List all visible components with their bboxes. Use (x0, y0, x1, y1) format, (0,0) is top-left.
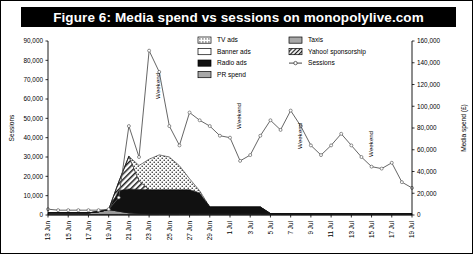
sessions-data-point (117, 196, 120, 199)
svg-text:80,000: 80,000 (23, 57, 43, 64)
svg-text:17 Jul: 17 Jul (388, 221, 395, 238)
sessions-data-point (249, 154, 252, 157)
legend-item-label: Banner ads (217, 48, 251, 55)
svg-text:60,000: 60,000 (417, 146, 437, 153)
svg-text:27 Jun: 27 Jun (186, 221, 193, 241)
svg-text:13 Jul: 13 Jul (348, 221, 355, 238)
svg-text:0: 0 (39, 211, 43, 218)
sessions-data-point (178, 144, 181, 147)
svg-text:30,000: 30,000 (23, 153, 43, 160)
figure-title-bar: Figure 6: Media spend vs sessions on mon… (21, 7, 456, 27)
area-tv-ads (48, 155, 412, 214)
sessions-data-point (259, 134, 262, 137)
legend-swatch (198, 72, 211, 78)
sessions-data-point (239, 159, 242, 162)
svg-text:140,000: 140,000 (417, 59, 441, 66)
weekend-annotation: Weekend (154, 72, 161, 99)
sessions-data-point (350, 144, 353, 147)
svg-text:5 Jul: 5 Jul (267, 221, 274, 235)
chart-legend: TV adsBanner adsRadio adsPR spendTaxisYa… (198, 36, 366, 79)
sessions-data-point (188, 111, 191, 114)
svg-text:13 Jun: 13 Jun (44, 221, 51, 241)
sessions-data-point (340, 132, 343, 135)
legend-item-label: Taxis (308, 36, 324, 43)
svg-text:17 Jun: 17 Jun (85, 221, 92, 241)
svg-text:25 Jun: 25 Jun (166, 221, 173, 241)
sessions-data-point (279, 128, 282, 131)
page-title: Figure 6: Media spend vs sessions on mon… (53, 10, 424, 25)
sessions-data-point (269, 119, 272, 122)
sessions-data-point (208, 125, 211, 128)
sessions-data-point (370, 165, 373, 168)
svg-text:Media spend (£): Media spend (£) (460, 104, 468, 152)
sessions-data-point (107, 208, 110, 211)
legend-item: Banner ads (198, 48, 251, 55)
svg-text:11 Jul: 11 Jul (327, 221, 334, 238)
sessions-data-point (138, 156, 141, 159)
svg-text:0: 0 (417, 211, 421, 218)
sessions-data-point (218, 134, 221, 137)
sessions-data-point (87, 209, 90, 212)
svg-text:19 Jul: 19 Jul (408, 221, 415, 238)
chart-plot-area: 010,00020,00030,00040,00050,00060,00070,… (1, 29, 473, 254)
stacked-spend-areas (48, 155, 412, 215)
svg-text:50,000: 50,000 (23, 115, 43, 122)
svg-text:10,000: 10,000 (23, 192, 43, 199)
weekend-annotation: Weekend (296, 122, 303, 149)
svg-text:40,000: 40,000 (23, 134, 43, 141)
svg-text:80,000: 80,000 (417, 124, 437, 131)
sessions-data-point (400, 181, 403, 184)
legend-item: Radio ads (198, 59, 247, 66)
sessions-data-point (289, 109, 292, 112)
legend-swatch (198, 60, 211, 66)
svg-text:20,000: 20,000 (417, 190, 437, 197)
svg-text:21 Jun: 21 Jun (125, 221, 132, 241)
figure-container: Figure 6: Media spend vs sessions on mon… (0, 0, 473, 254)
legend-item: PR spend (198, 71, 246, 79)
svg-text:1 Jul: 1 Jul (226, 221, 233, 235)
svg-text:70,000: 70,000 (23, 76, 43, 83)
weekend-annotation: Weekend (367, 130, 374, 157)
sessions-data-point (330, 144, 333, 147)
svg-text:100,000: 100,000 (417, 103, 441, 110)
svg-text:23 Jun: 23 Jun (145, 221, 152, 241)
legend-item-label: Yahoo! sponsorship (308, 48, 366, 56)
sessions-data-point (390, 161, 393, 164)
weekend-annotation: Weekend (235, 102, 242, 129)
svg-text:60,000: 60,000 (23, 95, 43, 102)
legend-item: Taxis (289, 36, 324, 43)
media-spend-sessions-chart: 010,00020,00030,00040,00050,00060,00070,… (1, 29, 473, 254)
sessions-data-point (360, 156, 363, 159)
svg-text:3 Jul: 3 Jul (247, 221, 254, 235)
svg-text:Sessions: Sessions (8, 114, 15, 141)
legend-item-label: Radio ads (217, 59, 247, 66)
legend-item: Yahoo! sponsorship (289, 48, 366, 56)
sessions-data-point (309, 144, 312, 147)
svg-text:7 Jul: 7 Jul (287, 221, 294, 235)
sessions-data-point (320, 154, 323, 157)
svg-text:9 Jul: 9 Jul (307, 221, 314, 235)
svg-text:19 Jun: 19 Jun (105, 221, 112, 241)
legend-item-label: PR spend (217, 71, 246, 79)
legend-item-label: TV ads (217, 36, 239, 43)
right-axis: 020,00040,00060,00080,000100,000120,0001… (412, 37, 468, 218)
svg-text:15 Jun: 15 Jun (65, 221, 72, 241)
sessions-data-point (380, 167, 383, 170)
sessions-data-point (148, 49, 151, 52)
legend-swatch-sessions (289, 61, 302, 64)
sessions-data-point (97, 209, 100, 212)
svg-text:90,000: 90,000 (23, 37, 43, 44)
svg-text:160,000: 160,000 (417, 37, 441, 44)
sessions-data-point (229, 136, 232, 139)
legend-swatch (289, 37, 302, 43)
svg-text:29 Jun: 29 Jun (206, 221, 213, 241)
sessions-data-point (168, 125, 171, 128)
area-yahoo-sponsorship (48, 156, 412, 213)
legend-swatch (198, 37, 211, 43)
sessions-data-point (198, 119, 201, 122)
svg-text:15 Jul: 15 Jul (368, 221, 375, 238)
sessions-data-point (127, 125, 130, 128)
weekend-annotations: WeekendWeekendWeekendWeekend (154, 72, 373, 157)
sessions-data-point (77, 209, 80, 212)
legend-item: TV ads (198, 36, 239, 43)
